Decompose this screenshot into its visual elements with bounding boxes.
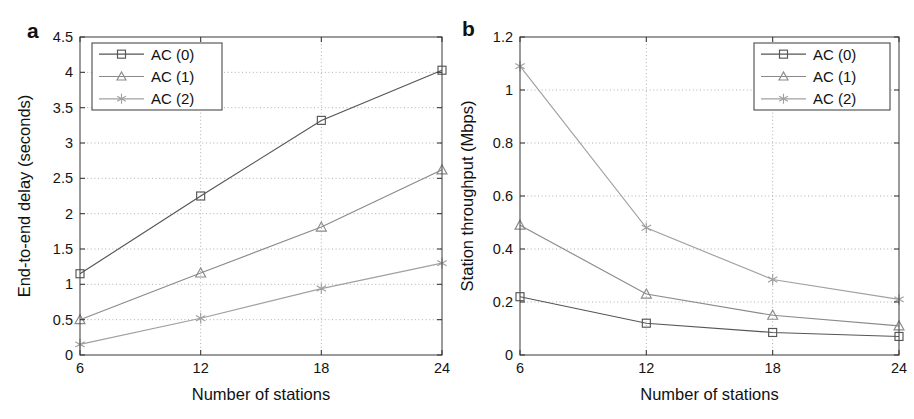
legend-label: AC (1) [813, 68, 856, 85]
legend-label: AC (2) [151, 90, 194, 107]
y-tick-label: 4 [65, 64, 73, 80]
legend-label: AC (2) [813, 90, 856, 107]
y-axis-title: Station throughput (Mbps) [458, 101, 476, 292]
y-tick-label: 1 [505, 82, 513, 98]
y-tick-label: 3 [65, 135, 73, 151]
series-ac-0 [516, 293, 903, 341]
chart-panel-a: a 612182400.511.522.533.544.5Number of s… [0, 0, 457, 419]
series-ac-1 [75, 165, 447, 324]
y-tick-label: 0.6 [493, 188, 513, 204]
legend: AC (0)AC (1)AC (2) [754, 43, 890, 110]
y-tick-label: 0.2 [493, 294, 513, 310]
x-tick-label: 6 [76, 360, 84, 376]
y-tick-label: 0.5 [53, 312, 73, 328]
y-tick-label: 0.8 [493, 135, 513, 151]
x-tick-label: 24 [891, 360, 907, 376]
y-tick-label: 0 [65, 347, 73, 363]
y-axis-title: End-to-end delay (seconds) [15, 95, 33, 298]
x-axis-title: Number of stations [640, 385, 778, 403]
y-tick-label: 0 [505, 347, 513, 363]
figure-container: a 612182400.511.522.533.544.5Number of s… [0, 0, 914, 419]
y-tick-label: 1.2 [493, 29, 513, 45]
x-tick-label: 6 [516, 360, 524, 376]
series-ac-2 [75, 258, 446, 350]
y-tick-label: 2.5 [53, 170, 73, 186]
y-tick-label: 0.4 [493, 241, 513, 257]
legend-label: AC (1) [151, 68, 194, 85]
series-ac-1 [515, 220, 904, 330]
y-tick-label: 1.5 [53, 241, 73, 257]
legend-label: AC (0) [813, 46, 856, 63]
legend-label: AC (0) [151, 46, 194, 63]
chart-panel-b: b 612182400.20.40.60.811.2Number of stat… [457, 0, 914, 419]
line-chart-b: 612182400.20.40.60.811.2Number of statio… [457, 0, 914, 419]
x-tick-label: 12 [193, 360, 209, 376]
legend: AC (0)AC (1)AC (2) [92, 43, 222, 110]
y-tick-label: 4.5 [53, 29, 73, 45]
x-tick-label: 18 [313, 360, 329, 376]
line-chart-a: 612182400.511.522.533.544.5Number of sta… [0, 0, 457, 419]
x-tick-label: 12 [638, 360, 654, 376]
x-tick-label: 18 [765, 360, 781, 376]
x-axis-title: Number of stations [192, 385, 330, 403]
x-tick-label: 24 [434, 360, 450, 376]
y-tick-label: 2 [65, 206, 73, 222]
data-point [196, 313, 205, 324]
y-tick-label: 3.5 [53, 100, 73, 116]
data-point [317, 283, 326, 294]
y-tick-label: 1 [65, 276, 73, 292]
